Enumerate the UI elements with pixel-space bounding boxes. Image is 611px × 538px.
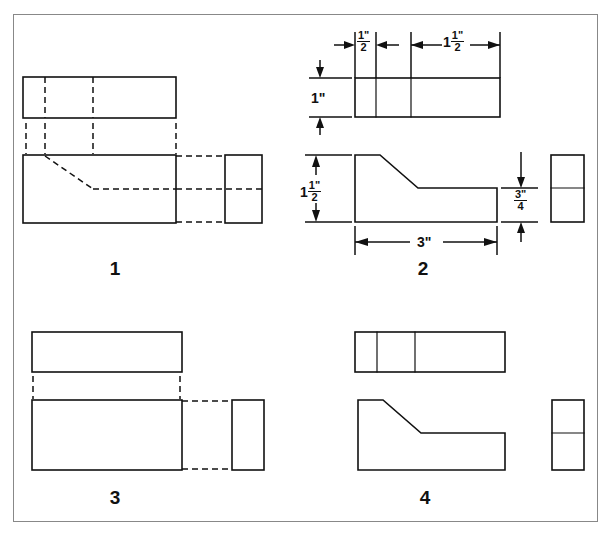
figure-4-group [355,332,584,470]
fraction-one-and-half-top: 1" 2 [451,30,464,53]
fig2-arrow-1half-lower [312,210,320,222]
fig1-front-view-hidden-diagonal [45,156,93,189]
figure-label-1: 1 [100,258,130,280]
fraction-half-inch: 1" 2 [357,30,370,53]
fraction-three-quarter: 3" 4 [514,189,527,212]
fig2-arrow-half-right [376,41,387,49]
fig3-side-view-outline [232,400,264,470]
figure-label-2: 2 [408,258,438,280]
fig2-arrow-onehalf-left [411,41,423,49]
dimension-label-one-inch: 1" [311,90,325,105]
dimension-label-half-inch: 1" 2 [357,30,370,53]
drawing-page: 1" 2 1 1" 2 1" 1 1" 2 3" 4 3" 1 2 3 4 [0,0,611,538]
fig2-arrow-half-left [344,41,355,49]
fig2-arrow-34-upper [517,177,525,188]
fraction-denominator: 2 [308,192,321,203]
fraction-denominator: 2 [357,42,370,53]
fig2-top-view-outline [355,78,500,117]
fraction-denominator: 2 [451,42,464,53]
figure-label-4: 4 [410,487,440,509]
fig3-front-view-outline [32,400,182,470]
dimension-value: 3" [417,235,431,249]
fig2-arrow-3in-right [484,238,497,246]
technical-drawing-canvas [0,0,611,538]
whole-number: 1 [300,185,308,199]
fig2-arrow-onehalf-right [488,41,500,49]
fig2-arrow-1in-lower [316,117,324,128]
figure-3-group [32,332,264,470]
fig2-front-view-profile [355,155,497,222]
figure-1-group [23,77,262,223]
fig2-arrow-3in-left [355,238,368,246]
fig3-top-view-outline [32,332,182,372]
figure-2-group [305,32,584,255]
dimension-value: 1" [311,91,325,105]
figure-label-3: 3 [100,487,130,509]
fig2-arrow-1half-upper [312,155,320,167]
dimension-label-one-and-half-top: 1 1" 2 [443,30,464,53]
dimension-label-three-inch: 3" [417,234,431,249]
dimension-label-three-quarter: 3" 4 [514,189,527,212]
fig4-side-view-outline [552,400,584,470]
fig4-front-view-profile [358,400,505,470]
fraction-denominator: 4 [514,201,527,212]
fraction-one-and-half-left: 1" 2 [308,180,321,203]
dimension-label-one-and-half-left: 1 1" 2 [300,180,321,203]
fig2-arrow-1in-upper [316,67,324,78]
fig1-top-view-outline [23,77,176,118]
whole-number: 1 [443,35,451,49]
fig2-arrow-34-lower [517,222,525,233]
